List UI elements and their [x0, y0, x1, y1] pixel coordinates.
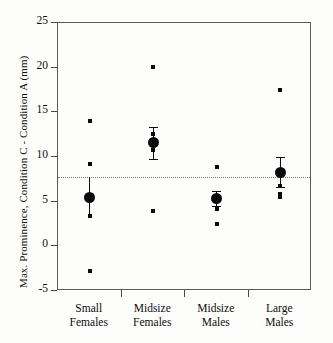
plot-area — [57, 22, 311, 290]
x-axis-category-label-line: Small — [57, 301, 121, 315]
data-point — [215, 165, 219, 169]
data-point — [215, 222, 219, 226]
x-axis-category-label: SmallFemales — [57, 301, 121, 330]
error-bar-cap — [276, 157, 285, 158]
data-point — [278, 88, 282, 92]
x-axis-category-label: MidsizeMales — [184, 301, 248, 330]
x-axis-group-separator — [121, 290, 122, 297]
x-axis-group-separator — [184, 290, 185, 297]
data-point — [88, 269, 92, 273]
error-bar-cap — [276, 187, 285, 188]
chart-figure: Max. Prominence, Condition C - Condition… — [0, 0, 333, 343]
data-point — [151, 65, 155, 69]
y-axis-tick-label: 25 — [8, 15, 48, 27]
y-axis-tick-label: 20 — [8, 60, 48, 72]
data-point — [215, 207, 219, 211]
x-axis-category-label: MidsizeFemales — [121, 301, 185, 330]
y-axis-tick-label: 0 — [8, 238, 48, 250]
y-axis-title: Max. Prominence, Condition C - Condition… — [17, 56, 29, 288]
data-point — [88, 162, 92, 166]
x-axis-category-label-line: Females — [57, 315, 121, 329]
x-axis-group-separator — [248, 290, 249, 297]
x-axis-category-label-line: Males — [248, 315, 312, 329]
x-axis-category-label: LargeMales — [248, 301, 312, 330]
data-point — [151, 209, 155, 213]
reference-line — [58, 177, 310, 178]
x-axis-category-label-line: Males — [184, 315, 248, 329]
x-axis-category-label-line: Large — [248, 301, 312, 315]
y-axis-tick-label: 15 — [8, 104, 48, 116]
error-bar-cap — [149, 127, 158, 128]
x-axis-category-label-line: Females — [121, 315, 185, 329]
group-mean-marker — [211, 193, 222, 204]
y-axis-tick-label: 5 — [8, 194, 48, 206]
data-point — [88, 119, 92, 123]
error-bar-cap — [212, 191, 221, 192]
x-axis-category-label-line: Midsize — [121, 301, 185, 315]
y-axis-tick-mark — [51, 290, 57, 291]
error-bar-cap — [212, 206, 221, 207]
y-axis-tick-label: -5 — [8, 283, 48, 295]
group-mean-marker — [84, 192, 95, 203]
group-mean-marker — [148, 137, 159, 148]
group-mean-marker — [275, 167, 286, 178]
x-axis-category-label-line: Midsize — [184, 301, 248, 315]
error-bar-cap — [149, 159, 158, 160]
y-axis-tick-label: 10 — [8, 149, 48, 161]
data-point — [278, 195, 282, 199]
